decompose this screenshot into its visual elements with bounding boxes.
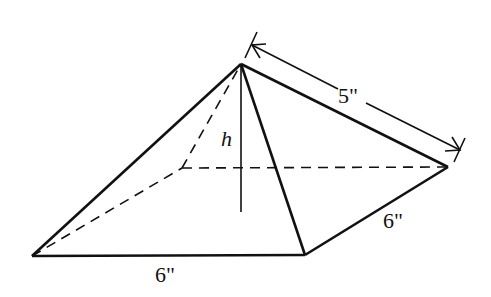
lateral-edge-front <box>241 64 305 255</box>
base-edge-right <box>305 167 448 255</box>
lateral-edge-right <box>241 64 448 167</box>
hidden-base-edge-back <box>182 167 448 168</box>
slant-height-label: 5" <box>338 85 358 107</box>
base-front-label: 6" <box>155 264 175 286</box>
base-side-label: 6" <box>383 210 403 232</box>
lateral-edge-left <box>32 64 241 256</box>
hidden-base-edge-left <box>32 168 182 256</box>
pyramid-diagram: 5" h 6" 6" <box>0 0 491 297</box>
hidden-lateral-edge <box>182 64 241 168</box>
pyramid-drawing <box>0 0 491 297</box>
dimension-line-lower <box>366 103 460 150</box>
base-edge-front <box>32 255 305 256</box>
dimension-line-upper <box>252 45 338 89</box>
height-label: h <box>221 128 232 150</box>
